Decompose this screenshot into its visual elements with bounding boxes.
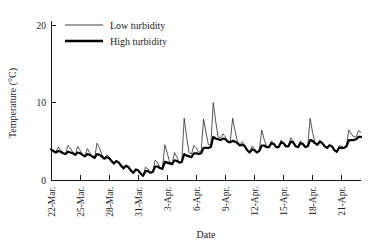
x-tick-label: 18-Apr. bbox=[308, 187, 318, 216]
y-axis-title: Temperature (°C) bbox=[7, 68, 19, 138]
x-axis-title: Date bbox=[197, 229, 216, 240]
legend-label-low-turbidity: Low turbidity bbox=[110, 20, 165, 31]
chart-legend: Low turbidity High turbidity bbox=[65, 20, 167, 47]
y-axis-ticks: 0 10 20 bbox=[37, 21, 57, 187]
series-line-high-turbidity bbox=[51, 137, 361, 176]
x-tick-label: 6-Apr. bbox=[192, 187, 202, 212]
x-tick-label: 15-Apr. bbox=[279, 187, 289, 216]
x-tick-label: 21-Apr. bbox=[337, 187, 347, 216]
x-tick-label: 28-Mar. bbox=[105, 187, 115, 217]
x-tick-label: 9-Apr. bbox=[221, 187, 231, 212]
x-tick-label: 31-Mar. bbox=[134, 187, 144, 217]
y-tick-label-20: 20 bbox=[37, 21, 47, 31]
y-tick-label-10: 10 bbox=[37, 98, 47, 108]
x-tick-label: 12-Apr. bbox=[250, 187, 260, 216]
x-tick-label: 22-Mar. bbox=[47, 187, 57, 217]
chart-figure: 0 10 20 Temperature (°C) 22-Mar.25-Mar.2… bbox=[0, 0, 373, 247]
x-tick-label: 25-Mar. bbox=[76, 187, 86, 217]
series-line-low-turbidity bbox=[51, 103, 361, 176]
y-tick-label-0: 0 bbox=[41, 176, 46, 186]
x-tick-label: 3-Apr. bbox=[163, 187, 173, 212]
legend-label-high-turbidity: High turbidity bbox=[110, 36, 167, 47]
temperature-line-chart: 0 10 20 Temperature (°C) 22-Mar.25-Mar.2… bbox=[0, 0, 373, 247]
